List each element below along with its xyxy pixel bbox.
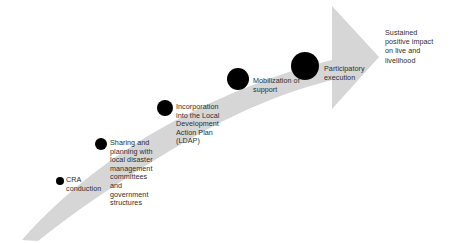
milestone-dot-2: [95, 138, 107, 150]
step-label-incorporation-ldap: Incorporation into the Local Development…: [176, 103, 238, 146]
step-label-mobilization-of-support: Mobilization of support: [253, 77, 319, 94]
outcome-label: Sustained positive impact on live and li…: [385, 28, 455, 65]
milestone-dot-4: [227, 68, 249, 90]
step-label-participatory-execution: Participatory execution: [324, 65, 386, 82]
step-label-sharing-and-planning: Sharing and planning with local disaster…: [110, 139, 172, 208]
diagram-canvas: CRA conduction Sharing and planning with…: [0, 0, 457, 243]
